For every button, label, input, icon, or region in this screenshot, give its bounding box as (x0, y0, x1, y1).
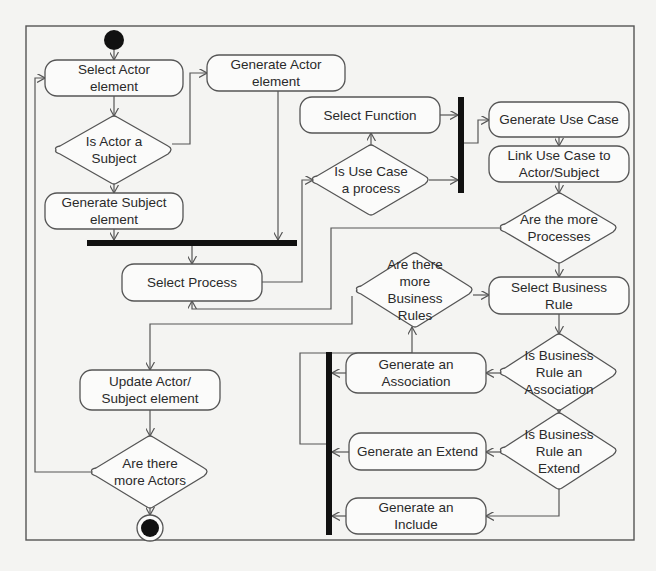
node-label: Are there (387, 257, 443, 272)
decision-are-the-more-processes[interactable]: Are the moreProcesses (501, 193, 617, 263)
action-select-actor-element[interactable]: Select Actorelement (45, 60, 183, 96)
action-generate-extend[interactable]: Generate an Extend (349, 433, 486, 470)
node-label: Select Actor (78, 62, 151, 77)
decision-are-there-more-business-rules[interactable]: Are theremoreBusinessRules (357, 253, 473, 327)
node-label: Generate Use Case (499, 112, 618, 127)
node-label: Is Actor a (86, 134, 143, 149)
decision-diamond (92, 436, 208, 508)
action-select-function[interactable]: Select Function (300, 97, 440, 133)
node-label: element (90, 212, 138, 227)
action-link-use-case[interactable]: Link Use Case toActor/Subject (489, 146, 629, 182)
node-label: Are the more (520, 212, 598, 227)
node-label: Processes (527, 229, 590, 244)
node-label: Generate an Extend (357, 444, 478, 459)
decision-is-business-rule-an-extend[interactable]: Is BusinessRule anExtend (501, 413, 617, 489)
node-label: element (252, 74, 300, 89)
node-label: more Actors (114, 473, 186, 488)
end-node-icon (137, 515, 163, 541)
node-label: Association (524, 382, 593, 397)
action-generate-subject-element[interactable]: Generate Subjectelement (45, 193, 183, 229)
decision-is-actor-a-subject[interactable]: Is Actor aSubject (56, 116, 172, 184)
action-select-process[interactable]: Select Process (122, 264, 262, 301)
node-label: Generate Actor (231, 57, 322, 72)
node-label: Select Process (147, 275, 237, 290)
node-label: element (90, 79, 138, 94)
node-label: Generate an (378, 500, 453, 515)
node-label: Is Business (524, 348, 593, 363)
node-label: Generate an (378, 357, 453, 372)
nodes-layer: Select ActorelementGenerate Actorelement… (45, 30, 629, 541)
diagram-canvas: Select ActorelementGenerate Actorelement… (0, 0, 656, 571)
node-label: Link Use Case to (508, 148, 611, 163)
action-generate-include[interactable]: Generate anInclude (346, 498, 486, 534)
node-label: Rule an (536, 365, 583, 380)
sync-bar-actor-join (87, 240, 297, 246)
node-label: Business (388, 291, 443, 306)
action-update-actor-subject[interactable]: Update Actor/Subject element (80, 370, 220, 410)
node-label: Actor/Subject (519, 165, 600, 180)
activity-diagram: Select ActorelementGenerate Actorelement… (0, 0, 656, 571)
node-label: Select Function (323, 108, 416, 123)
edge-select-process-to-use-case-decision (262, 180, 313, 282)
edge-more-rules-no-to-update-actor (150, 296, 352, 370)
node-label: Extend (538, 461, 580, 476)
decision-is-business-rule-an-association[interactable]: Is BusinessRule anAssociation (501, 334, 617, 410)
action-generate-association[interactable]: Generate anAssociation (346, 353, 486, 393)
node-label: Rule an (536, 444, 583, 459)
decision-diamond (56, 116, 172, 184)
node-label: Include (394, 517, 438, 532)
decision-diamond (501, 193, 617, 263)
node-label: Subject (91, 151, 136, 166)
action-select-business-rule[interactable]: Select BusinessRule (489, 277, 629, 314)
node-label: Update Actor/ (109, 374, 191, 389)
node-label: Generate Subject (61, 195, 166, 210)
node-label: Is Business (524, 427, 593, 442)
action-generate-use-case[interactable]: Generate Use Case (489, 102, 629, 137)
decision-are-there-more-actors[interactable]: Are theremore Actors (92, 436, 208, 508)
decision-is-use-case-a-process[interactable]: Is Use Casea process (313, 145, 429, 215)
node-label: Rules (398, 308, 433, 323)
node-label: Is Use Case (334, 164, 408, 179)
start-node-icon (104, 30, 124, 50)
sync-bar-rule-join (326, 352, 332, 535)
node-label: more (400, 274, 431, 289)
action-generate-actor-element[interactable]: Generate Actorelement (207, 55, 345, 91)
node-label: Select Business (511, 280, 607, 295)
sync-bar-function-fork (458, 97, 464, 193)
node-label: Rule (545, 297, 573, 312)
node-label: Subject element (102, 391, 199, 406)
node-label: Association (381, 374, 450, 389)
edge-fork-to-generate-use-case (464, 120, 489, 143)
edge-extend-decision-no (486, 489, 559, 516)
node-label: a process (342, 181, 401, 196)
decision-diamond (313, 145, 429, 215)
node-label: Are there (122, 456, 178, 471)
